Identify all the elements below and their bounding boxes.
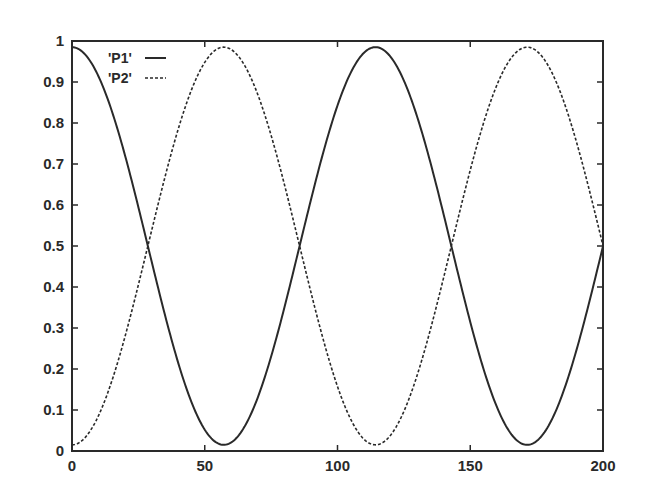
legend-label-p2: 'P2' xyxy=(108,70,132,86)
axes: 05010015020000.10.20.30.40.50.60.70.80.9… xyxy=(43,32,615,474)
y-tick-label: 0.7 xyxy=(43,155,64,172)
legend: 'P1' 'P2' xyxy=(108,50,166,86)
y-tick-label: 0.5 xyxy=(43,237,64,254)
x-tick-label: 150 xyxy=(458,457,483,474)
x-tick-label: 200 xyxy=(590,457,615,474)
x-tick-label: 100 xyxy=(325,457,350,474)
y-tick-label: 0.3 xyxy=(43,319,64,336)
x-tick-label: 50 xyxy=(196,457,213,474)
line-chart: 05010015020000.10.20.30.40.50.60.70.80.9… xyxy=(0,0,650,491)
y-tick-label: 0.1 xyxy=(43,401,64,418)
y-tick-label: 1 xyxy=(56,32,64,49)
y-tick-label: 0.8 xyxy=(43,114,64,131)
y-tick-label: 0.9 xyxy=(43,73,64,90)
y-tick-label: 0.6 xyxy=(43,196,64,213)
y-tick-label: 0 xyxy=(56,442,64,459)
series-p1-line xyxy=(72,47,603,445)
y-tick-label: 0.2 xyxy=(43,360,64,377)
y-tick-label: 0.4 xyxy=(43,278,65,295)
curves xyxy=(72,47,603,445)
legend-label-p1: 'P1' xyxy=(108,50,132,66)
x-tick-label: 0 xyxy=(68,457,76,474)
